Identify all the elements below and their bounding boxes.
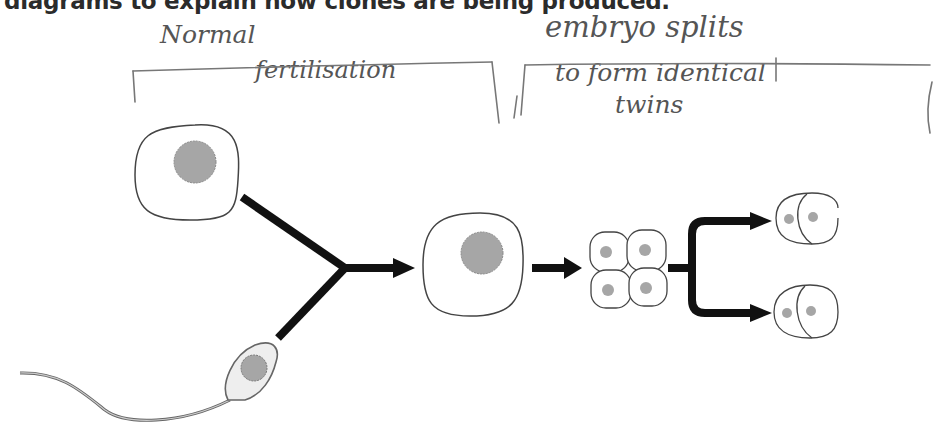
arrowhead-icon <box>393 258 415 278</box>
bracket-twins <box>514 58 932 133</box>
arrowhead-bottom-icon <box>750 304 772 322</box>
fertilisation-arrow-icon <box>242 197 395 338</box>
twin-embryo-2 <box>774 285 838 338</box>
arrowhead-top-icon <box>750 212 772 230</box>
sperm-cell <box>20 343 277 420</box>
division-arrow-icon <box>532 257 582 279</box>
four-cell-embryo <box>590 230 667 308</box>
twin-embryo-1 <box>776 193 838 244</box>
split-arrow-icon <box>668 221 752 313</box>
cloning-diagram <box>0 0 939 436</box>
egg-cell <box>135 125 239 220</box>
bracket-fertilisation <box>133 62 499 123</box>
zygote <box>423 213 523 316</box>
